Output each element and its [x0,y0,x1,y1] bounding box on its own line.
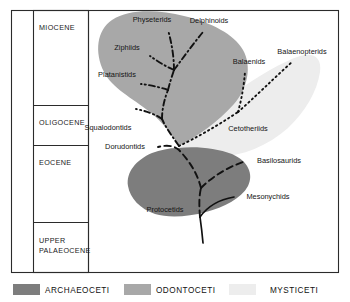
legend-label-archaeoceti: ARCHAEOCETI [45,286,110,295]
taxon-label-balaenids: Balaenids [233,57,266,66]
taxon-label-protocetids: Protocetids [147,205,184,214]
epoch-label-upper-palaeocene-line1: UPPER [39,236,66,245]
taxon-label-cetotheriids: Cetotheriids [228,124,268,133]
epoch-label-oligocene: OLIGOCENE [39,118,85,127]
epoch-column-left-edge [34,11,89,273]
legend-label-mysticeti: MYSTICETI [270,286,318,295]
taxon-label-squalodontids: Squalodontids [85,123,132,132]
legend-swatch-mysticeti [229,284,256,295]
legend: ARCHAEOCETI ODONTOCETI MYSTICETI [13,284,318,295]
legend-swatch-odontoceti [124,284,151,295]
epoch-label-miocene: MIOCENE [39,23,75,32]
epoch-label-eocene: EOCENE [39,158,71,167]
clade-shapes [98,11,320,216]
legend-label-odontoceti: ODONTOCETI [156,286,215,295]
taxon-label-delphinoids: Delphinoids [190,16,229,25]
phylogeny-canvas: MIOCENE OLIGOCENE EOCENE UPPER PALAEOCEN… [0,0,350,302]
legend-swatch-archaeoceti [13,284,40,295]
epoch-labels: MIOCENE OLIGOCENE EOCENE UPPER PALAEOCEN… [39,23,91,255]
phylogeny-figure: MIOCENE OLIGOCENE EOCENE UPPER PALAEOCEN… [0,0,350,302]
taxon-label-basilosaurids: Basilosaurids [257,156,301,165]
taxon-label-ziphiids: Ziphiids [114,43,140,52]
taxon-label-physeterids: Physeterids [133,15,172,24]
taxon-label-dorudontids: Dorudontids [105,142,145,151]
branch-root-trunk [200,217,203,243]
taxon-label-balaenopterids: Balaenopterids [277,47,327,56]
epoch-label-upper-palaeocene-line2: PALAEOCENE [39,246,91,255]
taxon-label-mesonychids: Mesonychids [246,192,289,201]
taxon-label-platanistids: Platanistids [98,70,136,79]
